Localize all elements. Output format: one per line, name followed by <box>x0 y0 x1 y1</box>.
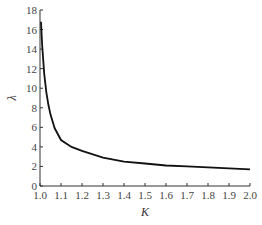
x-axis-title: K <box>140 205 150 219</box>
x-tick-label: 1.9 <box>222 189 236 201</box>
x-tick-label: 1.2 <box>75 189 89 201</box>
x-tick-label: 1.6 <box>159 189 173 201</box>
x-tick-label: 1.3 <box>96 189 110 201</box>
y-tick-label: 10 <box>26 82 38 94</box>
y-tick-label: 2 <box>32 160 38 172</box>
x-tick-label: 1.7 <box>180 189 194 201</box>
y-tick-label: 4 <box>32 141 38 153</box>
y-tick-label: 18 <box>26 4 38 16</box>
x-tick-label: 2.0 <box>243 189 257 201</box>
y-axis-title: λ <box>5 95 19 101</box>
y-tick-label: 14 <box>26 43 38 55</box>
data-line <box>41 22 250 170</box>
y-tick-label: 6 <box>32 121 38 133</box>
x-tick-label: 1.0 <box>33 189 47 201</box>
x-tick-label: 1.8 <box>201 189 215 201</box>
x-tick-label: 1.4 <box>117 189 131 201</box>
x-tick-label: 1.5 <box>138 189 152 201</box>
y-tick-label: 12 <box>26 63 37 75</box>
y-tick-label: 8 <box>32 102 38 114</box>
y-tick-label: 16 <box>26 24 38 36</box>
x-tick-label: 1.1 <box>54 189 68 201</box>
chart: 024681012141618 1.01.11.21.31.41.51.61.7… <box>0 0 262 225</box>
